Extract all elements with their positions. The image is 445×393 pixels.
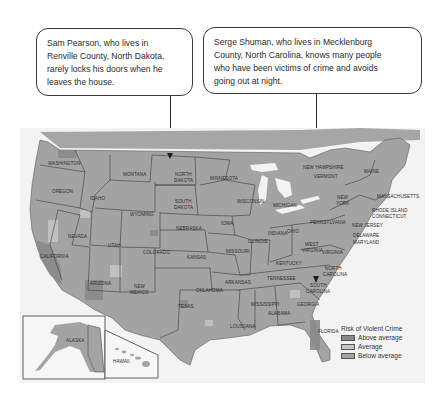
legend-swatch xyxy=(341,335,355,341)
label-louisiana: LOUISIANA xyxy=(230,324,256,329)
label-ohio: OHIO xyxy=(287,229,299,234)
label-montana: MONTANA xyxy=(123,172,147,177)
label-arizona: ARIZONA xyxy=(90,281,112,286)
label-idaho: IDAHO xyxy=(90,196,105,201)
label-kansas: KANSAS xyxy=(187,255,206,260)
legend-item-above-average: Above average xyxy=(341,333,402,342)
legend-label: Below average xyxy=(358,352,402,359)
label-florida: FLORIDA xyxy=(318,329,339,334)
label-iowa: IOWA xyxy=(221,221,234,226)
label-tennessee: TENNESSEE xyxy=(267,276,296,281)
label-new-york-2: YORK xyxy=(336,201,350,206)
label-utah: UTAH xyxy=(108,243,121,248)
label-michigan: MICHIGAN xyxy=(273,203,297,208)
label-arkansas: ARKANSAS xyxy=(225,280,251,285)
label-new-mexico: NEW xyxy=(134,284,146,289)
label-pennsylvania: PENNSYLVANIA xyxy=(310,220,347,225)
label-north-dakota-2: DAKOTA xyxy=(174,178,194,183)
label-nebraska: NEBRASKA xyxy=(176,226,203,231)
label-west-virginia: WEST xyxy=(305,242,319,247)
label-nevada: NEVADA xyxy=(68,234,88,239)
legend-item-below-average: Below average xyxy=(341,351,402,360)
legend-label: Average xyxy=(358,343,382,350)
label-washington: WASHINGTON xyxy=(48,161,80,166)
label-wisconsin: WISCONSIN xyxy=(237,199,264,204)
legend-title: Risk of Violent Crime xyxy=(341,325,402,332)
legend-item-average: Average xyxy=(341,342,402,351)
label-illinois: ILLINOIS xyxy=(248,239,268,244)
label-south-carolina-2: CAROLINA xyxy=(306,289,331,294)
label-south-dakota-2: DAKOTA xyxy=(174,205,194,210)
label-texas: TEXAS xyxy=(178,304,194,309)
label-hawaii: HAWAII xyxy=(113,359,130,364)
label-alaska: ALASKA xyxy=(66,338,85,343)
label-california: CALIFORNIA xyxy=(40,254,69,259)
label-alabama: ALABAMA xyxy=(268,311,291,316)
label-new-mexico-2: MEXICO xyxy=(130,290,149,295)
label-new-york: NEW xyxy=(337,195,349,200)
legend-swatch xyxy=(341,353,355,359)
label-massachusetts: MASSACHUSETTS xyxy=(377,194,419,199)
label-wyoming: WYOMING xyxy=(130,212,154,217)
label-connecticut: CONNECTICUT xyxy=(372,214,407,219)
label-new-hampshire: NEW HAMPSHIRE xyxy=(303,165,344,170)
label-oregon: OREGON xyxy=(52,189,73,194)
alaska-inset: ALASKA xyxy=(23,316,105,379)
label-georgia: GEORGIA xyxy=(297,302,320,307)
label-maryland: MARYLAND xyxy=(353,240,380,245)
label-minnesota: MINNESOTA xyxy=(210,176,239,181)
label-rhode-island: RHODE ISLAND xyxy=(372,208,408,213)
label-vermont: VERMONT xyxy=(314,174,338,179)
label-indiana: INDIANA xyxy=(268,231,288,236)
label-west-virginia-2: VIRGINIA xyxy=(302,248,324,253)
label-north-carolina-2: CAROLINA xyxy=(323,272,348,277)
label-missouri: MISSOURI xyxy=(226,249,250,254)
legend-swatch xyxy=(341,344,355,350)
map-legend: Risk of Violent Crime Above average Aver… xyxy=(341,325,402,360)
label-oklahoma: OKLAHOMA xyxy=(196,288,224,293)
label-maine: MAINE xyxy=(364,169,379,174)
label-north-dakota: NORTH xyxy=(175,172,192,177)
label-kentucky: KENTUCKY xyxy=(276,261,302,266)
label-mississippi: MISSISSIPPI xyxy=(251,302,279,307)
label-colorado: COLORADO xyxy=(143,250,170,255)
label-new-jersey: NEW JERSEY xyxy=(352,223,383,228)
label-north-carolina: NORTH xyxy=(325,266,342,271)
label-south-carolina: SOUTH xyxy=(310,283,327,288)
label-delaware: DELAWARE xyxy=(353,233,379,238)
label-virginia: VIRGINIA xyxy=(322,250,344,255)
legend-label: Above average xyxy=(358,334,402,341)
label-south-dakota: SOUTH xyxy=(175,199,192,204)
